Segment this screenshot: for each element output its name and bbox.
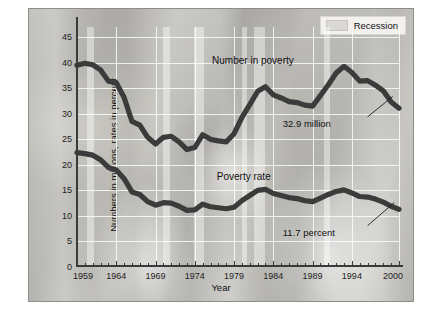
y-axis-tick-label: 10 bbox=[62, 211, 72, 221]
annotation-leader-line bbox=[368, 203, 395, 226]
y-axis-tick-label: 35 bbox=[62, 83, 72, 93]
y-axis-tick-label: 5 bbox=[67, 236, 72, 246]
x-axis-tick-label: 1979 bbox=[224, 271, 244, 281]
x-axis-tick-label: 1994 bbox=[342, 271, 362, 281]
x-axis-tick-label: 1984 bbox=[263, 271, 283, 281]
plot-area: 051015202530354045 195919641969197419791… bbox=[77, 27, 399, 267]
x-axis-line bbox=[76, 265, 403, 267]
x-axis-tick-label: 1974 bbox=[185, 271, 205, 281]
y-axis-tick-label: 15 bbox=[62, 185, 72, 195]
gridline-vertical bbox=[399, 27, 400, 267]
y-axis-tick-label: 20 bbox=[62, 160, 72, 170]
x-axis-tick-label: 1964 bbox=[106, 271, 126, 281]
poverty-chart-figure: Numbers in millions, rates in percent Ye… bbox=[0, 0, 426, 320]
annotation-leader-line bbox=[368, 96, 393, 116]
y-axis-tick-label: 40 bbox=[62, 58, 72, 68]
y-axis-tick-label: 45 bbox=[62, 32, 72, 42]
x-axis-tick-label: 2000 bbox=[383, 271, 403, 281]
y-axis-tick-label: 0 bbox=[67, 262, 72, 272]
x-axis-tick-label: 1989 bbox=[303, 271, 323, 281]
y-axis-line bbox=[76, 17, 78, 267]
chart-panel: Numbers in millions, rates in percent Ye… bbox=[28, 8, 414, 302]
y-axis-tick-label: 25 bbox=[62, 134, 72, 144]
x-axis-tick-label: 1959 bbox=[73, 271, 93, 281]
annotation-leader-lines bbox=[77, 27, 399, 267]
x-axis-tick-label: 1969 bbox=[146, 271, 166, 281]
x-axis-title: Year bbox=[29, 282, 413, 293]
y-axis-tick-label: 30 bbox=[62, 109, 72, 119]
